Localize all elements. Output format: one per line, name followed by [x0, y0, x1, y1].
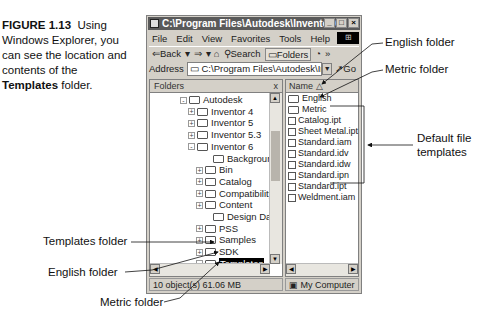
leader-metric-right: [320, 70, 383, 97]
templates-bracket: [330, 106, 364, 183]
callout-leader-lines: [0, 0, 491, 319]
leader-english-right: [322, 43, 383, 84]
leader-metric-bottom: [164, 262, 219, 302]
leader-english-left: [125, 252, 218, 272]
